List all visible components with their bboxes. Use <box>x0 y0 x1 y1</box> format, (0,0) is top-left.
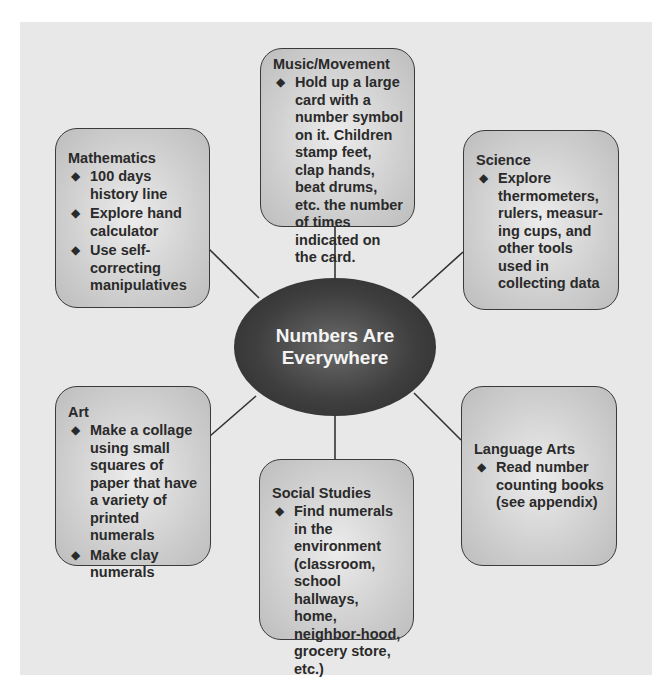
list-item: ◆Hold up a large card with a number symb… <box>273 74 404 267</box>
diamond-bullet-icon: ◆ <box>71 422 80 440</box>
diamond-bullet-icon: ◆ <box>71 168 80 186</box>
connector-mathematics <box>209 249 259 298</box>
connector-art <box>210 396 256 436</box>
connector-language-arts <box>414 393 461 440</box>
connector-science <box>412 252 463 298</box>
list-item: ◆Read number counting books (see appendi… <box>474 459 606 512</box>
node-items: ◆100 days history line ◆Explore hand cal… <box>68 168 199 297</box>
node-language-arts: Language Arts ◆Read number counting book… <box>461 386 617 566</box>
node-title: Art <box>68 403 200 421</box>
node-title: Social Studies <box>272 484 403 502</box>
list-item: ◆Make a collage using small squares of p… <box>68 422 200 545</box>
node-items: ◆Hold up a large card with a number symb… <box>273 74 404 269</box>
node-items: ◆Read number counting books (see appendi… <box>474 459 606 514</box>
node-art: Art ◆Make a collage using small squares … <box>55 386 211 566</box>
list-item: ◆Use self-correcting manipulatives <box>68 242 199 295</box>
diamond-bullet-icon: ◆ <box>71 242 80 260</box>
node-title: Language Arts <box>474 440 606 458</box>
node-title: Music/Movement <box>273 55 404 73</box>
diamond-bullet-icon: ◆ <box>479 170 488 188</box>
node-items: ◆Explore thermometers, rulers, measur-in… <box>476 170 608 295</box>
diamond-bullet-icon: ◆ <box>71 547 80 565</box>
list-item: ◆Find numerals in the environment (class… <box>272 503 403 678</box>
node-title: Mathematics <box>68 149 199 167</box>
central-topic: Numbers Are Everywhere <box>234 278 436 416</box>
central-topic-title: Numbers Are Everywhere <box>255 325 415 369</box>
list-item: ◆Make clay numerals <box>68 547 200 582</box>
node-music-movement: Music/Movement ◆Hold up a large card wit… <box>260 48 415 227</box>
diamond-bullet-icon: ◆ <box>275 503 284 521</box>
node-items: ◆Make a collage using small squares of p… <box>68 422 200 584</box>
node-science: Science ◆Explore thermometers, rulers, m… <box>463 130 619 310</box>
diamond-bullet-icon: ◆ <box>71 205 80 223</box>
node-title: Science <box>476 151 608 169</box>
node-mathematics: Mathematics ◆100 days history line ◆Expl… <box>55 128 210 308</box>
list-item: ◆100 days history line <box>68 168 199 203</box>
list-item: ◆Explore hand calculator <box>68 205 199 240</box>
node-items: ◆Find numerals in the environment (class… <box>272 503 403 680</box>
diamond-bullet-icon: ◆ <box>477 459 486 477</box>
list-item: ◆Explore thermometers, rulers, measur-in… <box>476 170 608 293</box>
node-social-studies: Social Studies ◆Find numerals in the env… <box>259 459 414 640</box>
diamond-bullet-icon: ◆ <box>276 74 285 92</box>
